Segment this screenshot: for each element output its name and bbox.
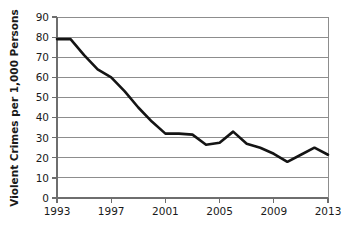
chart-canvas: Violent Crimes per 1,000 Persons: [0, 0, 352, 236]
x-tick-label-1993: 1993: [44, 205, 71, 217]
y-axis-title: Violent Crimes per 1,000 Persons: [8, 9, 20, 207]
y-axis-title-text: Violent Crimes per 1,000 Persons: [8, 9, 20, 207]
x-tick-label-2009: 2009: [260, 205, 287, 217]
y-tick-label-80: 80: [36, 31, 49, 43]
x-tick-label-1997: 1997: [98, 205, 125, 217]
y-tick-label-90: 90: [36, 11, 49, 23]
y-tick-label-70: 70: [36, 51, 49, 63]
y-tick-label-20: 20: [36, 152, 49, 164]
y-tick-label-40: 40: [36, 111, 49, 123]
y-tick-label-30: 30: [36, 132, 49, 144]
y-tick-label-60: 60: [36, 71, 49, 83]
x-tick-label-2001: 2001: [152, 205, 179, 217]
violent-crimes-line-chart: Violent Crimes per 1,000 Persons: [0, 0, 352, 236]
y-tick-label-10: 10: [36, 172, 49, 184]
x-tick-label-2005: 2005: [206, 205, 233, 217]
y-tick-label-50: 50: [36, 91, 49, 103]
y-tick-label-0: 0: [42, 192, 49, 204]
x-tick-label-2013: 2013: [315, 205, 342, 217]
